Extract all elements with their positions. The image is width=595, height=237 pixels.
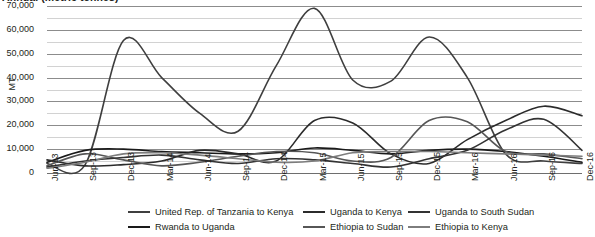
y-axis-tick-label: 30,000 <box>0 95 34 105</box>
legend-item[interactable]: United Rep. of Tanzania to Kenya <box>128 207 293 217</box>
legend-swatch <box>128 226 150 228</box>
legend-item[interactable]: Ethiopia to Sudan <box>303 222 403 232</box>
plot-area: 010,00020,00030,00040,00050,00060,00070,… <box>47 6 582 173</box>
legend-label: Ethiopia to Sudan <box>330 222 403 232</box>
x-axis-tick-label: Mar-14 <box>165 152 175 181</box>
legend-label: Uganda to South Sudan <box>435 207 534 217</box>
y-axis-tick-label: 10,000 <box>0 143 34 153</box>
x-axis-tick-label: Jun-13 <box>50 153 60 181</box>
y-axis-tick-label: 60,000 <box>0 24 34 34</box>
legend-swatch <box>408 211 430 213</box>
x-axis-tick-label: Jun-16 <box>509 153 519 181</box>
y-axis-tick-label: 20,000 <box>0 119 34 129</box>
x-axis-tick-label: Jun-15 <box>356 153 366 181</box>
legend-item[interactable]: Rwanda to Uganda <box>128 222 235 232</box>
legend-swatch <box>408 226 430 228</box>
y-axis-tick-label: 40,000 <box>0 72 34 82</box>
x-axis-tick-label: Dec-15 <box>432 152 442 181</box>
legend-swatch <box>128 211 150 213</box>
x-axis-tick-label: Jun-14 <box>203 153 213 181</box>
legend-item[interactable]: Uganda to Kenya <box>303 207 402 217</box>
x-axis-tick-label: Dec-14 <box>279 152 289 181</box>
x-axis-tick-label: Mar-15 <box>318 152 328 181</box>
legend-label: Ethiopia to Kenya <box>435 222 508 232</box>
legend-label: Rwanda to Uganda <box>155 222 235 232</box>
x-axis-tick-label: Dec-16 <box>585 152 595 181</box>
x-axis-tick-label: Mar-16 <box>470 152 480 181</box>
x-axis-tick-label: Sep-15 <box>394 152 404 181</box>
legend-swatch <box>303 211 325 213</box>
x-axis-tick-label: Sep-13 <box>88 152 98 181</box>
chart-legend: United Rep. of Tanzania to KenyaRwanda t… <box>0 205 591 237</box>
legend-item[interactable]: Uganda to South Sudan <box>408 207 534 217</box>
x-axis-tick-label: Dec-13 <box>126 152 136 181</box>
x-axis-tick-label: Sep-16 <box>547 152 557 181</box>
legend-label: Uganda to Kenya <box>330 207 402 217</box>
y-axis-tick-label: 50,000 <box>0 48 34 58</box>
legend-item[interactable]: Ethiopia to Kenya <box>408 222 508 232</box>
legend-label: United Rep. of Tanzania to Kenya <box>155 207 293 217</box>
x-axis-tick-label: Sep-14 <box>241 152 251 181</box>
y-axis-tick-label: 0 <box>0 167 34 177</box>
series-lines <box>47 6 582 173</box>
y-axis-tick-label: 70,000 <box>0 0 34 10</box>
legend-swatch <box>303 226 325 228</box>
